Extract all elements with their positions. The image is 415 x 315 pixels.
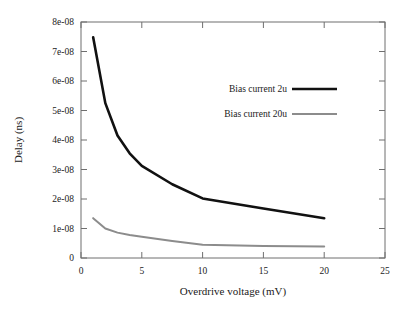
x-tick-label: 10 [198,266,208,276]
data-series-group [93,37,324,246]
y-axis-title: Delay (ns) [12,117,25,163]
y-tick-label: 5e-08 [52,106,74,116]
plot-frame [81,22,385,258]
y-tick-label: 2e-08 [52,194,74,204]
y-tick-label: 8e-08 [52,17,74,27]
x-tick-label: 5 [139,266,144,276]
axis-tick-marks [81,22,385,258]
x-tick-label: 20 [319,266,329,276]
series-line-bias-current-2u [93,37,324,218]
x-tick-label: 0 [79,266,84,276]
y-tick-label: 0 [69,253,74,263]
x-axis-tick-labels: 0510152025 [79,266,390,276]
x-tick-label: 25 [380,266,390,276]
y-tick-label: 1e-08 [52,224,74,234]
x-tick-label: 15 [259,266,269,276]
series-line-bias-current-20u [93,218,324,246]
y-axis-tick-labels: 01e-082e-083e-084e-085e-086e-087e-088e-0… [52,17,74,263]
chart-legend: Bias current 2u Bias current 20u [224,84,337,119]
y-tick-label: 7e-08 [52,47,74,57]
delay-vs-overdrive-voltage-chart: 01e-082e-083e-084e-085e-086e-087e-088e-0… [0,0,415,315]
x-axis-title: Overdrive voltage (mV) [180,285,287,298]
chart-container: 01e-082e-083e-084e-085e-086e-087e-088e-0… [0,0,415,315]
legend-label-bias-current-2u: Bias current 2u [229,84,287,94]
y-tick-label: 3e-08 [52,165,74,175]
y-tick-label: 4e-08 [52,135,74,145]
legend-label-bias-current-20u: Bias current 20u [224,109,287,119]
y-tick-label: 6e-08 [52,76,74,86]
